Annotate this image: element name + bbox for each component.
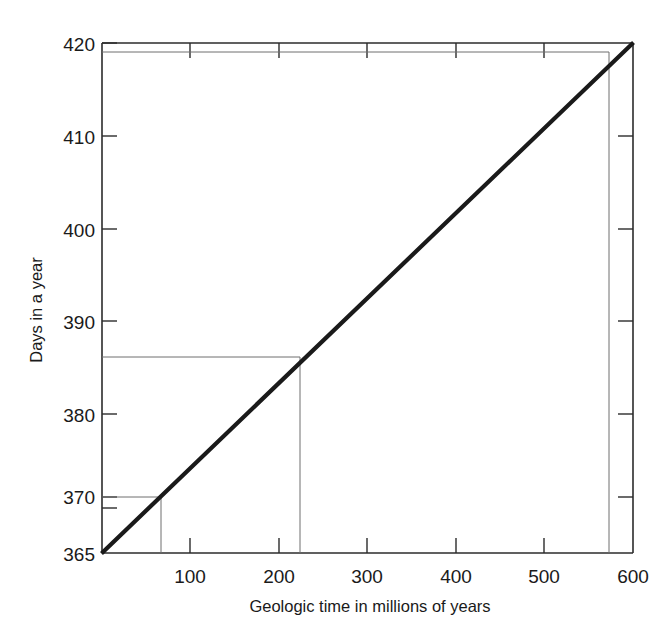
x-axis-title: Geologic time in millions of years <box>249 597 490 615</box>
x-tick-label-600: 600 <box>617 566 649 587</box>
x-tick-label-100: 100 <box>174 566 206 587</box>
y-axis-ticks-left <box>102 43 117 508</box>
x-axis-ticks-top <box>190 43 544 58</box>
y-axis-title: Days in a year <box>27 257 45 363</box>
y-tick-label-370: 370 <box>63 487 95 508</box>
x-tick-label-400: 400 <box>440 566 472 587</box>
x-tick-label-300: 300 <box>351 566 383 587</box>
y-axis-ticks-right <box>618 136 633 497</box>
y-tick-label-380: 380 <box>63 405 95 426</box>
chart-canvas: 420 410 400 390 380 370 365 100 200 300 … <box>0 0 667 636</box>
chart-figure: 420 410 400 390 380 370 365 100 200 300 … <box>0 0 667 636</box>
data-line-segment <box>103 44 632 552</box>
y-tick-label-390: 390 <box>63 312 95 333</box>
x-tick-labels: 100 200 300 400 500 600 <box>174 566 649 587</box>
data-series-days-in-a-year <box>103 44 632 552</box>
y-tick-label-400: 400 <box>63 220 95 241</box>
y-tick-label-410: 410 <box>63 127 95 148</box>
x-axis-ticks-bottom <box>190 538 544 553</box>
x-tick-label-500: 500 <box>528 566 560 587</box>
x-tick-label-200: 200 <box>263 566 295 587</box>
y-tick-label-365: 365 <box>63 544 95 565</box>
y-tick-labels: 420 410 400 390 380 370 365 <box>63 34 95 565</box>
y-tick-label-420: 420 <box>63 34 95 55</box>
